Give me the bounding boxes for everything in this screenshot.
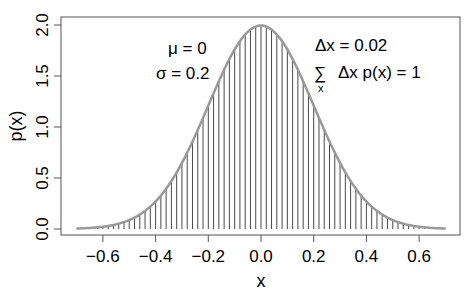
y-tick-label: 1.5 (33, 64, 52, 88)
x-tick-label: 0.4 (355, 247, 379, 266)
x-tick-label: −0.2 (192, 247, 226, 266)
x-tick-label: −0.4 (139, 247, 173, 266)
normal-density-chart: −0.6−0.4−0.20.00.20.40.6 0.00.51.01.52.0… (0, 0, 466, 293)
y-axis-title: p(x) (6, 111, 26, 142)
y-tick-label: 2.0 (33, 13, 52, 37)
x-tick-label: 0.0 (249, 247, 273, 266)
plot-box (61, 17, 460, 235)
x-axis: −0.6−0.4−0.20.00.20.40.6 (86, 235, 431, 266)
sum-symbol: ∑ (314, 64, 326, 83)
x-tick-label: 0.2 (302, 247, 326, 266)
annotation-sigma: σ = 0.2 (156, 64, 210, 83)
y-tick-label: 0.5 (33, 166, 52, 190)
y-tick-label: 0.0 (33, 217, 52, 241)
x-tick-label: −0.6 (86, 247, 120, 266)
y-tick-label: 1.0 (33, 115, 52, 139)
annotation-sum-expression: Δx p(x) = 1 (338, 63, 421, 82)
annotation-mu: μ = 0 (168, 39, 207, 58)
sum-subscript: x (318, 82, 324, 94)
x-tick-label: 0.6 (407, 247, 431, 266)
y-axis: 0.00.51.01.52.0 (33, 13, 61, 241)
annotation-delta-x: Δx = 0.02 (315, 36, 387, 55)
x-axis-title: x (257, 271, 266, 291)
density-sample-lines (77, 26, 446, 229)
